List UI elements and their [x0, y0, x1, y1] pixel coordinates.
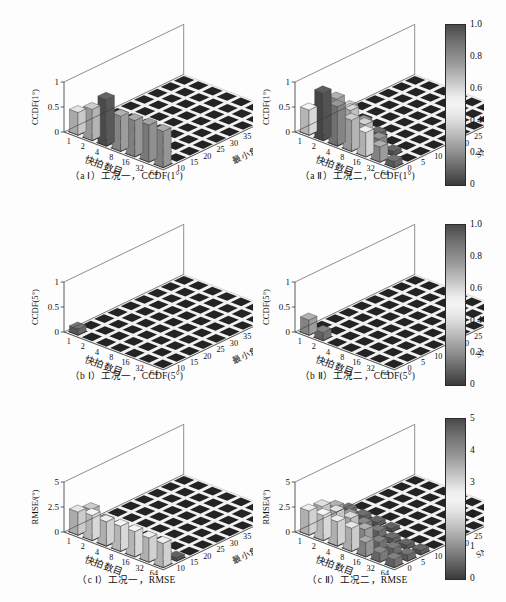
z-axis-title: CCDF(5°) — [30, 289, 40, 325]
x-tick-label: 1 — [67, 137, 71, 146]
figure-root: 00.511248163264101520253035404550CCDF(1°… — [0, 0, 506, 602]
y-tick-label: 25 — [216, 345, 224, 354]
colorbar-tick-label: 0.6 — [470, 83, 482, 93]
colorbar-tick-label: 0 — [470, 179, 475, 189]
z-tick-label: 5 — [55, 477, 60, 487]
bar-3d — [301, 313, 318, 335]
colorbar-ticks: 1.00.80.60.40.20 — [468, 216, 502, 392]
x-tick-label: 4 — [95, 148, 99, 157]
y-tick-label: 5 — [421, 358, 425, 367]
y-tick-label: 5 — [421, 158, 425, 167]
x-tick-label: 2 — [81, 142, 85, 151]
z-tick-label: 1 — [55, 277, 60, 287]
colorbar-row-3: 543210 — [440, 410, 502, 588]
z-tick-label: 1 — [286, 277, 291, 287]
y-tick-label: 15 — [190, 558, 198, 567]
plot-canvas-b1: 00.511248163264101520253035404550CCDF(5°… — [0, 200, 253, 375]
z-tick-label: 0 — [55, 327, 60, 337]
x-tick-label: 1 — [298, 137, 302, 146]
z-tick-label: 0 — [286, 527, 291, 537]
colorbar-tick-label: 1.0 — [470, 19, 482, 29]
figure-row-3: 02.551248163264101520253035404550RMSE/(°… — [0, 400, 506, 602]
colorbar-tick-label: 1 — [470, 541, 475, 551]
z-axis-title: RMSE/(°) — [30, 489, 40, 524]
z-tick-label: 1 — [55, 77, 60, 87]
x-tick-label: 2 — [312, 142, 316, 151]
x-tick-label: 4 — [95, 548, 99, 557]
y-tick-label: 20 — [203, 552, 211, 561]
panel-caption-a1: （a Ⅰ）工况一，CCDF(1°) — [0, 168, 253, 182]
colorbar-tick-label: 0.4 — [470, 315, 482, 325]
z-tick-label: 0 — [55, 127, 60, 137]
colorbar-tick-label: 0.2 — [470, 347, 482, 357]
bar-3d — [70, 105, 87, 135]
z-tick-label: 0 — [55, 527, 60, 537]
plot-canvas-a1: 00.511248163264101520253035404550CCDF(1°… — [0, 0, 253, 175]
y-tick-label: 25 — [216, 145, 224, 154]
panel-caption-b1: （b Ⅰ）工况一，CCDF(5°) — [0, 368, 253, 382]
x-tick-label: 1 — [67, 537, 71, 546]
panel-c1: 02.551248163264101520253035404550RMSE/(°… — [0, 400, 253, 600]
x-tick-label: 8 — [340, 353, 344, 362]
z-axis-title: CCDF(5°) — [261, 289, 271, 325]
y-tick-label: 5 — [421, 558, 425, 567]
x-tick-label: 2 — [312, 342, 316, 351]
x-tick-label: 8 — [340, 553, 344, 562]
colorbar-ticks: 543210 — [468, 410, 502, 586]
panel-caption-c1: （c Ⅰ）工况一，RMSE — [0, 572, 253, 586]
bar-3d — [301, 504, 318, 535]
z-tick-label: 0.5 — [48, 102, 60, 112]
bar-3d — [70, 505, 87, 535]
x-tick-label: 2 — [312, 542, 316, 551]
colorbar-tick-label: 4 — [470, 445, 475, 455]
z-tick-label: 0 — [286, 127, 291, 137]
plot-b1: 00.511248163264101520253035404550CCDF(5°… — [0, 200, 253, 375]
x-tick-label: 4 — [95, 348, 99, 357]
plot-canvas-c1: 02.551248163264101520253035404550RMSE/(°… — [0, 400, 253, 575]
colorbar-tick-label: 2 — [470, 509, 475, 519]
y-tick-label: 15 — [190, 358, 198, 367]
colorbar-ticks: 1.00.80.60.40.20 — [468, 16, 502, 192]
colorbar-tick-label: 0 — [470, 379, 475, 389]
colorbar-gradient — [445, 224, 466, 386]
x-tick-label: 8 — [109, 553, 113, 562]
colorbar-tick-label: 0.2 — [470, 147, 482, 157]
figure-row-2: 00.511248163264101520253035404550CCDF(5°… — [0, 200, 506, 400]
z-axis-title: CCDF(1°) — [261, 89, 271, 125]
x-tick-label: 4 — [326, 548, 330, 557]
x-tick-label: 8 — [109, 153, 113, 162]
colorbar-gradient — [445, 24, 466, 186]
colorbar-tick-label: 0.6 — [470, 283, 482, 293]
colorbar-tick-label: 3 — [470, 477, 475, 487]
z-tick-label: 0 — [286, 327, 291, 337]
x-tick-label: 8 — [109, 353, 113, 362]
colorbar-tick-label: 0.8 — [470, 251, 482, 261]
x-tick-label: 4 — [326, 148, 330, 157]
x-tick-label: 2 — [81, 542, 85, 551]
z-tick-label: 2.5 — [279, 502, 291, 512]
panel-a1: 00.511248163264101520253035404550CCDF(1°… — [0, 0, 253, 200]
z-tick-label: 0.5 — [48, 302, 60, 312]
colorbar-tick-label: 0.4 — [470, 115, 482, 125]
z-tick-label: 5 — [286, 477, 291, 487]
bar-3d — [301, 103, 318, 135]
colorbar-tick-label: 5 — [470, 413, 475, 423]
z-axis-title: CCDF(1°) — [30, 89, 40, 125]
x-tick-label: 2 — [81, 342, 85, 351]
y-tick-label: 20 — [203, 152, 211, 161]
z-tick-label: 0.5 — [279, 302, 291, 312]
x-tick-label: 1 — [298, 537, 302, 546]
y-tick-label: 25 — [216, 545, 224, 554]
colorbar-tick-label: 0 — [470, 573, 475, 583]
plot-c1: 02.551248163264101520253035404550RMSE/(°… — [0, 400, 253, 575]
plot-a1: 00.511248163264101520253035404550CCDF(1°… — [0, 0, 253, 175]
z-tick-label: 0.5 — [279, 102, 291, 112]
x-tick-label: 1 — [67, 337, 71, 346]
panel-b1: 00.511248163264101520253035404550CCDF(5°… — [0, 200, 253, 400]
y-tick-label: 20 — [203, 352, 211, 361]
x-tick-label: 1 — [298, 337, 302, 346]
colorbar-gradient — [445, 418, 466, 580]
z-tick-label: 1 — [286, 77, 291, 87]
z-tick-label: 2.5 — [48, 502, 60, 512]
x-tick-label: 8 — [340, 153, 344, 162]
